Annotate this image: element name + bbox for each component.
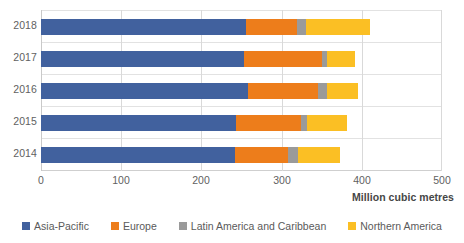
bar-2016 [41,83,358,99]
legend-swatch-icon [22,222,30,230]
x-tick-400: 400 [342,174,382,186]
stacked-bar-chart: 2018 2017 2016 2015 2014 0 100 200 30 [0,0,464,243]
legend-label: Northern America [360,220,442,232]
x-tick-100: 100 [101,174,141,186]
bar-segment [41,19,246,35]
legend-item[interactable]: Asia-Pacific [22,220,89,232]
plot-inner [41,10,442,171]
bar-segment [235,147,288,163]
y-axis-label-2014: 2014 [4,147,37,159]
bar-segment [41,51,244,67]
bar-segment [246,19,297,35]
gridline-horizontal [41,10,442,11]
legend-swatch-icon [111,222,119,230]
legend-item[interactable]: Northern America [348,220,442,232]
bar-2014 [41,147,340,163]
legend-swatch-icon [348,222,356,230]
bar-segment [248,83,318,99]
bar-segment [244,51,322,67]
bar-segment [41,115,236,131]
axis-baseline [41,170,442,171]
y-axis-label-2017: 2017 [4,51,37,63]
legend-label: Asia-Pacific [34,220,89,232]
bar-segment [306,19,370,35]
gridline-horizontal [41,42,442,43]
bar-2017 [41,51,355,67]
x-tick-500: 500 [422,174,462,186]
bar-segment [307,115,347,131]
bar-segment [298,147,341,163]
bar-segment [288,147,298,163]
y-axis-label-2015: 2015 [4,115,37,127]
bar-segment [297,19,306,35]
legend-label: Latin America and Caribbean [191,220,326,232]
y-axis-label-2016: 2016 [4,83,37,95]
bar-segment [327,83,357,99]
legend-item[interactable]: Europe [111,220,157,232]
bar-segment [41,147,235,163]
bar-2015 [41,115,347,131]
legend-item[interactable]: Latin America and Caribbean [179,220,326,232]
gridline-horizontal [41,138,442,139]
legend-label: Europe [123,220,157,232]
gridline-horizontal [41,74,442,75]
gridline-horizontal [41,106,442,107]
gridline-x-500 [441,10,442,171]
x-tick-300: 300 [262,174,302,186]
bar-segment [236,115,301,131]
chart-legend: Asia-PacificEuropeLatin America and Cari… [0,220,464,232]
legend-swatch-icon [179,222,187,230]
x-tick-200: 200 [181,174,221,186]
plot-area: 2018 2017 2016 2015 2014 0 100 200 30 [0,0,464,186]
bar-segment [327,51,354,67]
bar-segment [41,83,248,99]
x-axis-title: Million cubic metres [352,191,454,203]
bar-2018 [41,19,370,35]
x-tick-0: 0 [21,174,61,186]
bar-segment [318,83,328,99]
y-axis-label-2018: 2018 [4,19,37,31]
